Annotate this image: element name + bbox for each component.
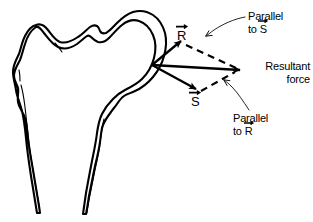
vector-s-letter: S — [191, 94, 200, 109]
leader-group — [206, 17, 249, 110]
femur-bone-drawing — [13, 11, 166, 214]
annotation-parallel-to-s-line1: Parallel — [248, 10, 283, 23]
annotation-parallel-to-s-line2: to S — [248, 23, 283, 36]
cortical-line-medial — [87, 119, 104, 213]
resultant-force-line1: Resultant — [246, 60, 310, 73]
leader-parallel-to-s — [206, 17, 245, 36]
vector-s-label: S — [191, 95, 200, 108]
annotation-parallel-to-r: Parallel to R — [233, 112, 268, 137]
annotation-parallel-to-r-line1: Parallel — [233, 112, 268, 125]
dashed-parallel-to-r — [201, 72, 235, 91]
annotation-to-word: to — [233, 125, 245, 137]
annotation-r-letter: R — [245, 125, 253, 137]
cortical-line-lateral — [21, 85, 39, 205]
dashed-parallel-to-s — [186, 45, 236, 68]
vector-r-letter: R — [177, 28, 186, 43]
annotation-r-symbol: R — [245, 125, 253, 138]
annotation-to-word: to — [248, 23, 260, 35]
annotation-s-symbol: S — [260, 23, 267, 36]
neck-detail-mark — [19, 70, 20, 81]
annotation-parallel-to-s: Parallel to S — [248, 10, 283, 35]
force-vector-figure: R S Parallel to S Resultant force — [0, 0, 313, 222]
resultant-force-label: Resultant force — [246, 60, 310, 85]
femur-outline — [13, 11, 166, 214]
resultant-force-arrow — [152, 65, 240, 70]
vector-s-arrow — [152, 65, 196, 89]
vector-r-symbol: R — [177, 29, 186, 42]
annotation-parallel-to-r-line2: to R — [233, 125, 268, 138]
vector-r-label: R — [177, 29, 186, 42]
vector-s-symbol: S — [191, 95, 200, 108]
annotation-s-letter: S — [260, 23, 267, 35]
resultant-force-line2: force — [246, 73, 310, 86]
